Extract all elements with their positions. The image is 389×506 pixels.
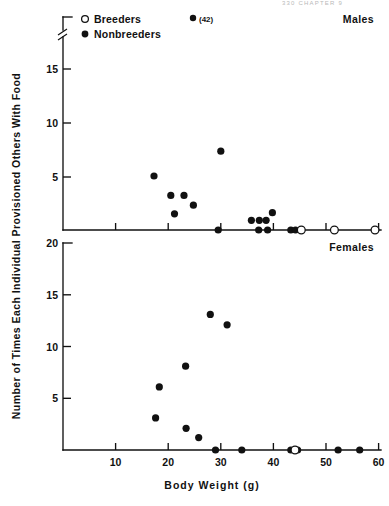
panel-label-males: Males [343, 13, 374, 25]
y-ticklabel-15-females: 15 [46, 289, 58, 301]
legend-label-nonbreeders: Nonbreeders [94, 28, 161, 40]
data-point [180, 192, 187, 199]
legend-marker-nonbreeders [82, 31, 89, 38]
x-ticklabel-60: 60 [373, 456, 385, 468]
series-nonbreeders-males [150, 148, 299, 234]
data-point [207, 311, 214, 318]
data-point [291, 446, 299, 454]
data-point [152, 414, 159, 421]
data-point [356, 446, 363, 453]
annotation-label-42: (42) [199, 15, 214, 24]
panel-males: 15 10 5 Males Breeders Nonbreeders (42) [46, 13, 381, 234]
data-point [224, 321, 231, 328]
data-point [212, 446, 219, 453]
panel-females: 20 15 10 5 10 20 30 40 50 60 Females [46, 237, 384, 468]
scatter-plot-figure: 15 10 5 Males Breeders Nonbreeders (42) [0, 0, 389, 506]
data-point [335, 446, 342, 453]
data-point [183, 425, 190, 432]
data-point [255, 226, 262, 233]
data-point [269, 209, 276, 216]
legend-label-breeders: Breeders [94, 13, 141, 25]
y-ticklabel-20-females: 20 [46, 237, 58, 249]
data-point [371, 226, 379, 234]
x-ticklabel-10: 10 [110, 456, 122, 468]
x-ticklabel-40: 40 [268, 456, 280, 468]
y-ticklabel-15-males: 15 [46, 63, 58, 75]
data-point [238, 446, 245, 453]
series-nonbreeders-females [152, 311, 363, 454]
data-point [171, 210, 178, 217]
x-ticklabel-50: 50 [320, 456, 332, 468]
series-breeders-females [291, 446, 299, 454]
data-point [331, 226, 339, 234]
y-ticklabel-5-females: 5 [52, 392, 58, 404]
x-ticklabel-20: 20 [162, 456, 174, 468]
data-point [217, 148, 224, 155]
legend-marker-breeders [82, 16, 89, 23]
y-ticklabel-10-females: 10 [46, 341, 58, 353]
data-point [182, 363, 189, 370]
data-point [215, 226, 222, 233]
data-point [190, 202, 197, 209]
data-point [263, 217, 270, 224]
data-point [167, 192, 174, 199]
data-point [297, 226, 305, 234]
data-point [195, 434, 202, 441]
data-point [256, 217, 263, 224]
data-point [248, 217, 255, 224]
panel-label-females: Females [329, 241, 374, 253]
data-point [150, 172, 157, 179]
annotation-marker-42 [190, 15, 196, 21]
y-ticklabel-5-males: 5 [52, 171, 58, 183]
x-axis-title: Body Weight (g) [164, 479, 259, 491]
data-point [264, 226, 271, 233]
y-ticklabel-10-males: 10 [46, 117, 58, 129]
x-ticklabel-30: 30 [215, 456, 227, 468]
data-point [156, 383, 163, 390]
